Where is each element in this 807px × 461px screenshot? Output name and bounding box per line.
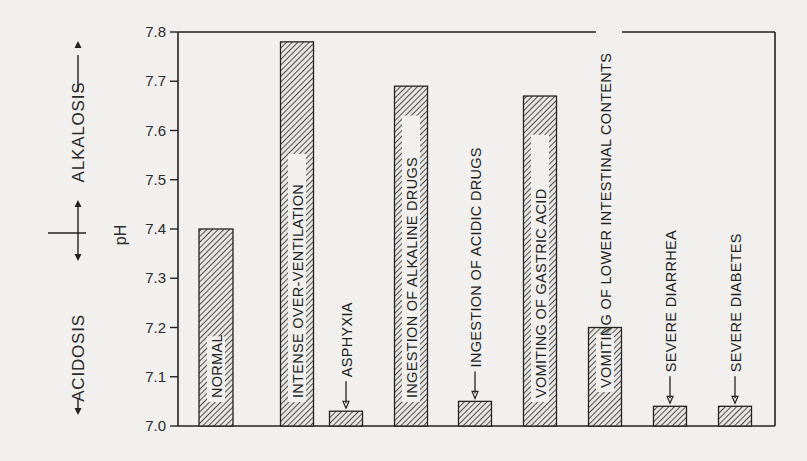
bar (330, 411, 363, 426)
bar (719, 406, 752, 426)
acidosis-alkalosis-annotation: ACIDOSIS ALKALOSIS (48, 41, 88, 415)
y-ticks: 7.07.17.27.37.47.57.67.77.8 (145, 23, 178, 434)
y-tick-label: 7.3 (145, 269, 166, 286)
bar (459, 401, 492, 426)
ph-bar-chart: 7.07.17.27.37.47.57.67.77.8 NORMALINTENS… (0, 0, 807, 461)
bar-label: ASPHYXIA (339, 302, 355, 377)
y-tick-label: 7.5 (145, 171, 166, 188)
y-tick-label: 7.2 (145, 319, 166, 336)
y-tick-label: 7.1 (145, 368, 166, 385)
bar-label: INGESTION OF ALKALINE DRUGS (404, 157, 420, 398)
alkalosis-label: ALKALOSIS (69, 82, 88, 183)
bar (654, 406, 687, 426)
y-tick-label: 7.7 (145, 72, 166, 89)
bar-label: VOMITING OF LOWER INTESTINAL CONTENTS (598, 53, 614, 388)
bar-label: SEVERE DIABETES (728, 233, 744, 372)
acidosis-label: ACIDOSIS (69, 314, 88, 402)
bar-label: NORMAL (209, 334, 225, 398)
bar-label: INGESTION OF ACIDIC DRUGS (468, 147, 484, 367)
bar-label: VOMITING OF GASTRIC ACID (533, 189, 549, 398)
y-tick-label: 7.4 (145, 220, 166, 237)
y-tick-label: 7.8 (145, 23, 166, 40)
y-tick-label: 7.6 (145, 122, 166, 139)
y-tick-label: 7.0 (145, 417, 166, 434)
bar-label: SEVERE DIARRHEA (663, 230, 679, 372)
bar-label: INTENSE OVER-VENTILATION (290, 184, 306, 398)
boundary-marker-icon (48, 220, 86, 243)
y-axis-title: pH (112, 225, 129, 245)
